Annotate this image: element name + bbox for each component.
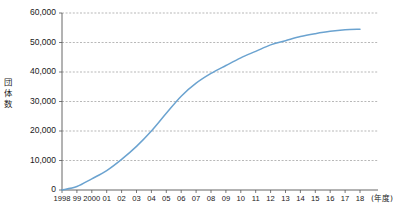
- x-tick-label: 16: [326, 194, 334, 203]
- x-tick-label: 99: [73, 194, 81, 203]
- x-tick-label: 12: [266, 194, 274, 203]
- y-tick-label: 40,000: [30, 66, 56, 76]
- x-tick-label: 10: [237, 194, 245, 203]
- x-tick-marks: [62, 190, 360, 193]
- x-tick-label: 05: [162, 194, 170, 203]
- chart-container: 60,00050,00040,00030,00020,00010,0000 19…: [0, 0, 403, 215]
- line-chart: 60,00050,00040,00030,00020,00010,0000 19…: [0, 0, 403, 215]
- x-tick-label: 02: [117, 194, 125, 203]
- x-tick-label: 08: [207, 194, 215, 203]
- x-tick-label: 14: [296, 194, 304, 203]
- y-tick-label: 50,000: [30, 37, 56, 47]
- x-tick-label: 2000: [83, 194, 100, 203]
- y-axis-title-char: 団: [4, 77, 12, 87]
- x-axis-unit-label: (年度): [371, 193, 393, 203]
- x-tick-label: 11: [252, 194, 260, 203]
- y-tick-label: 60,000: [30, 7, 56, 17]
- x-tick-label: 01: [102, 194, 110, 203]
- grid-lines: [62, 13, 378, 161]
- x-axis-tick-labels: 1998992000010203040506070809101112131415…: [54, 194, 365, 203]
- data-series-line: [62, 29, 360, 190]
- x-tick-label: 07: [192, 194, 200, 203]
- x-tick-label: 17: [341, 194, 349, 203]
- x-tick-label: 13: [281, 194, 289, 203]
- x-tick-label: 09: [222, 194, 230, 203]
- y-tick-label: 0: [51, 184, 56, 194]
- y-axis-title-char: 体: [4, 88, 13, 98]
- y-axis-title: 団体数: [4, 77, 13, 109]
- y-tick-label: 30,000: [30, 96, 56, 106]
- y-axis-title-char: 数: [4, 99, 13, 109]
- x-tick-label: 04: [147, 194, 155, 203]
- x-tick-label: 03: [132, 194, 140, 203]
- x-tick-label: 15: [311, 194, 319, 203]
- x-tick-label: 18: [356, 194, 364, 203]
- x-tick-label: 1998: [54, 194, 71, 203]
- y-axis-tick-labels: 60,00050,00040,00030,00020,00010,0000: [30, 7, 56, 194]
- x-tick-label: 06: [177, 194, 185, 203]
- y-tick-label: 20,000: [30, 125, 56, 135]
- y-tick-label: 10,000: [30, 155, 56, 165]
